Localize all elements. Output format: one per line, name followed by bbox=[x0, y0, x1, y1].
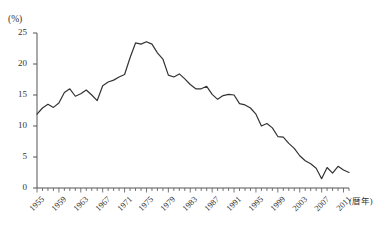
y-tick-label: 20 bbox=[5, 58, 27, 68]
y-tick-label: 10 bbox=[5, 120, 27, 130]
data-series-line bbox=[37, 42, 349, 179]
y-tick-marks bbox=[33, 33, 37, 188]
chart-container: (%) (暦年) 0510152025 19551959196319671971… bbox=[0, 0, 386, 234]
y-tick-label: 15 bbox=[5, 89, 27, 99]
y-tick-label: 5 bbox=[5, 151, 27, 161]
y-tick-label: 0 bbox=[5, 182, 27, 192]
axis-lines bbox=[37, 33, 349, 188]
x-minor-tick-marks bbox=[37, 188, 349, 193]
y-tick-label: 25 bbox=[5, 27, 27, 37]
